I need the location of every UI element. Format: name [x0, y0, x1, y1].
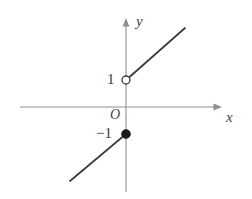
upper-ray-segment [130, 28, 186, 77]
coordinate-plane-svg [0, 0, 252, 199]
filled-dot-marker [122, 130, 131, 139]
x-axis-label: x [226, 110, 233, 125]
y-axis-arrowhead [123, 18, 130, 27]
lower-ray-segment [70, 134, 126, 181]
open-circle-marker [122, 76, 130, 84]
y-tick-label-minus-1: −1 [96, 126, 112, 141]
x-axis-arrowhead [214, 104, 223, 111]
y-axis-label: y [136, 14, 143, 29]
origin-label: O [110, 108, 120, 122]
graph-figure: y x O 1 −1 [0, 0, 252, 199]
y-tick-label-1: 1 [107, 72, 115, 87]
